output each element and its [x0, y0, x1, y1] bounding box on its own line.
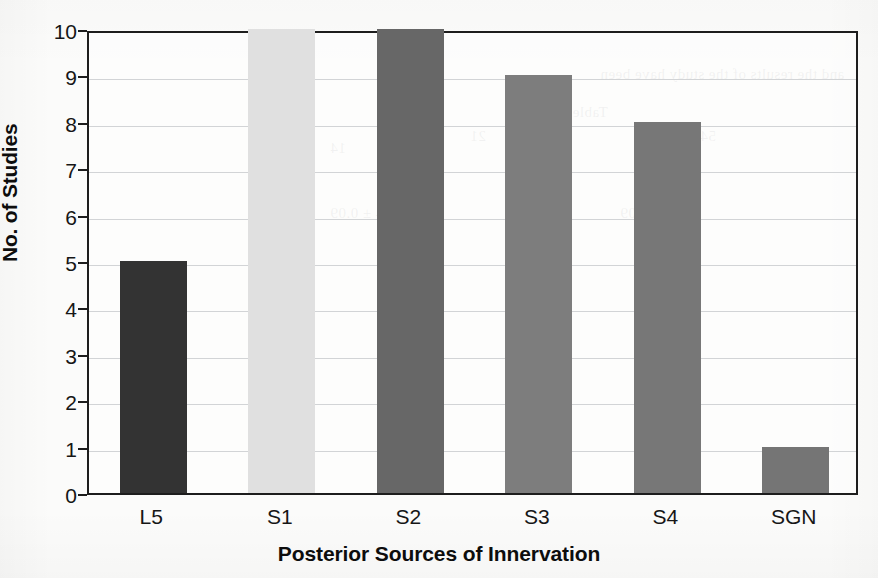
y-tick-label: 10 — [41, 21, 77, 42]
y-tick-label: 3 — [41, 345, 77, 366]
y-tick-label: 0 — [41, 485, 77, 506]
bar-s3[interactable] — [505, 75, 572, 493]
bar-s4[interactable] — [634, 122, 701, 493]
y-tick-mark — [78, 401, 87, 403]
bar-l5[interactable] — [120, 261, 187, 493]
y-tick-mark — [78, 76, 87, 78]
x-tick-label-l5: L5 — [140, 505, 163, 529]
x-tick-label-s3: S3 — [524, 505, 550, 529]
y-tick-mark — [78, 262, 87, 264]
x-tick-label-s2: S2 — [395, 505, 421, 529]
y-tick-mark — [78, 494, 87, 496]
y-tick-label: 6 — [41, 206, 77, 227]
y-tick-label: 7 — [41, 160, 77, 181]
y-tick-label: 5 — [41, 253, 77, 274]
x-tick-label-s4: S4 — [652, 505, 678, 529]
y-tick-label: 2 — [41, 392, 77, 413]
y-tick-mark — [78, 448, 87, 450]
y-tick-label: 8 — [41, 113, 77, 134]
bar-s1[interactable] — [248, 29, 315, 493]
y-tick-mark — [78, 123, 87, 125]
x-tick-label-s1: S1 — [267, 505, 293, 529]
bars-layer — [89, 33, 856, 493]
y-tick-mark — [78, 216, 87, 218]
bar-s2[interactable] — [377, 29, 444, 493]
y-tick-label: 9 — [41, 67, 77, 88]
bar-chart-screenshot: and the results of the study have been T… — [0, 0, 878, 578]
y-tick-mark — [78, 169, 87, 171]
y-tick-mark — [78, 308, 87, 310]
x-tick-label-sgn: SGN — [771, 505, 817, 529]
y-axis-title: No. of Studies — [0, 124, 22, 262]
y-tick-label: 4 — [41, 299, 77, 320]
y-tick-label: 1 — [41, 438, 77, 459]
x-axis-title: Posterior Sources of Innervation — [0, 542, 878, 566]
plot-area — [87, 31, 858, 495]
y-tick-mark — [78, 355, 87, 357]
bar-sgn[interactable] — [762, 447, 829, 493]
y-tick-mark — [78, 30, 87, 32]
